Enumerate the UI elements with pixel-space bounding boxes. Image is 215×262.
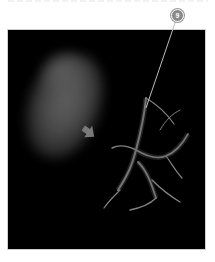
cropped-caption-fragment	[8, 0, 208, 2]
diffuse-glow-highlight	[38, 48, 86, 98]
branching-vessel-structure	[100, 90, 200, 220]
figure-image-panel	[8, 30, 205, 249]
callout-number-badge: 9	[171, 9, 184, 22]
arrow-down-right-icon	[81, 124, 97, 140]
